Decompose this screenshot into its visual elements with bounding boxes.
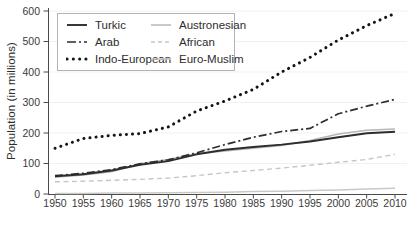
- x-tick-label: 1970: [157, 197, 181, 209]
- y-axis-title: Population (in millions): [5, 42, 17, 160]
- x-tick-label: 1955: [72, 197, 96, 209]
- x-tick-label: 1990: [270, 197, 294, 209]
- legend-item-euro-muslim: Euro-Muslim: [150, 51, 246, 67]
- series-line-african: [55, 154, 395, 182]
- x-tick-label: 1965: [128, 197, 152, 209]
- x-tick-label: 1985: [242, 197, 266, 209]
- legend-label: African: [179, 36, 215, 48]
- legend-label: Turkic: [95, 19, 126, 31]
- x-tick-label: 1975: [185, 197, 209, 209]
- legend-item-austronesian: Austronesian: [150, 17, 246, 33]
- x-tick-label: 1950: [43, 197, 67, 209]
- austronesian-line-sample: [150, 21, 172, 29]
- x-tick-label: 2005: [355, 197, 379, 209]
- y-tick-label: 400: [22, 66, 40, 78]
- arab-line-sample: [66, 38, 88, 46]
- turkic-line-sample: [66, 21, 88, 29]
- x-tick-label: 1980: [213, 197, 237, 209]
- series-line-euro-muslim: [55, 188, 395, 193]
- y-tick-label: 500: [22, 35, 40, 47]
- african-line-sample: [150, 38, 172, 46]
- y-tick-label: 0: [34, 188, 40, 200]
- x-tick-label: 2010: [383, 197, 407, 209]
- euro-muslim-line-sample: [150, 55, 172, 63]
- legend-item-turkic: Turkic: [66, 17, 150, 33]
- legend-label: Austronesian: [179, 19, 246, 31]
- series-line-arab: [55, 99, 395, 175]
- indo-european-line-sample: [66, 55, 88, 63]
- y-tick-label: 600: [22, 5, 40, 17]
- chart-legend: TurkicAustronesianArabAfricanIndo-Europe…: [57, 13, 235, 71]
- y-tick-label: 100: [22, 157, 40, 169]
- x-tick-label: 1995: [298, 197, 322, 209]
- x-tick-label: 1960: [100, 197, 124, 209]
- legend-label: Arab: [95, 36, 119, 48]
- population-line-chart: 0100200300400500600195019551960196519701…: [0, 0, 409, 232]
- legend-item-indo-european: Indo-European: [66, 51, 150, 67]
- y-tick-label: 300: [22, 96, 40, 108]
- legend-label: Euro-Muslim: [179, 53, 244, 65]
- legend-item-arab: Arab: [66, 34, 150, 50]
- y-tick-label: 200: [22, 127, 40, 139]
- x-tick-label: 2000: [327, 197, 351, 209]
- legend-item-african: African: [150, 34, 246, 50]
